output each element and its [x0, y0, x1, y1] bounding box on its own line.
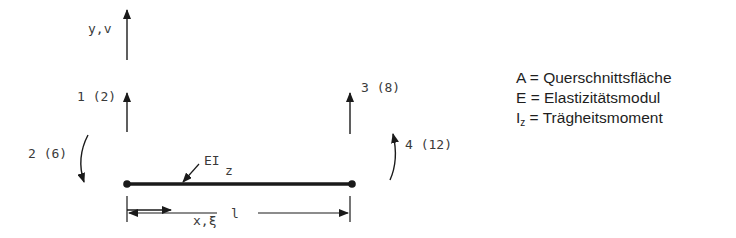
dof-4-label: 4 (12)	[405, 137, 452, 152]
x-axis-label: x,ξ	[193, 213, 216, 228]
left-node	[123, 180, 131, 188]
right-node	[348, 180, 356, 188]
legend-item-area: A = Querschnittsfläche	[516, 68, 672, 88]
stiffness-subscript: z	[225, 163, 233, 178]
dof-4-rotation-arrow-icon	[390, 134, 395, 180]
legend-item-modulus: E = Elastizitätsmodul	[516, 88, 672, 108]
dof-1-label: 1 (2)	[77, 89, 116, 104]
legend: A = Querschnittsfläche E = Elastizitätsm…	[516, 68, 672, 128]
stiffness-leader-arrow	[183, 164, 199, 182]
stiffness-label: EI	[204, 153, 220, 168]
legend-item-inertia: Iz = Trägheitsmoment	[516, 108, 672, 128]
y-axis-label: y,v	[88, 21, 112, 36]
length-label: l	[231, 206, 239, 221]
dof-2-label: 2 (6)	[28, 146, 67, 161]
dof-3-label: 3 (8)	[361, 80, 400, 95]
dof-2-rotation-arrow-icon	[81, 135, 88, 182]
beam-element	[123, 180, 356, 188]
